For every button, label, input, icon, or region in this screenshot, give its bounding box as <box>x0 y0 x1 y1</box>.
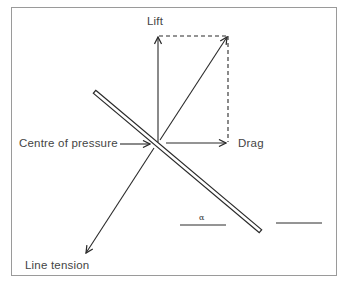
centre-of-pressure-label: Centre of pressure <box>19 137 118 149</box>
line-tension-label: Line tension <box>25 259 89 271</box>
drag-label: Drag <box>238 137 264 149</box>
lift-label: Lift <box>147 15 163 27</box>
angle-alpha-label: α <box>199 213 204 222</box>
resultant-arrow <box>160 37 227 140</box>
line-tension-arrow <box>86 148 154 253</box>
